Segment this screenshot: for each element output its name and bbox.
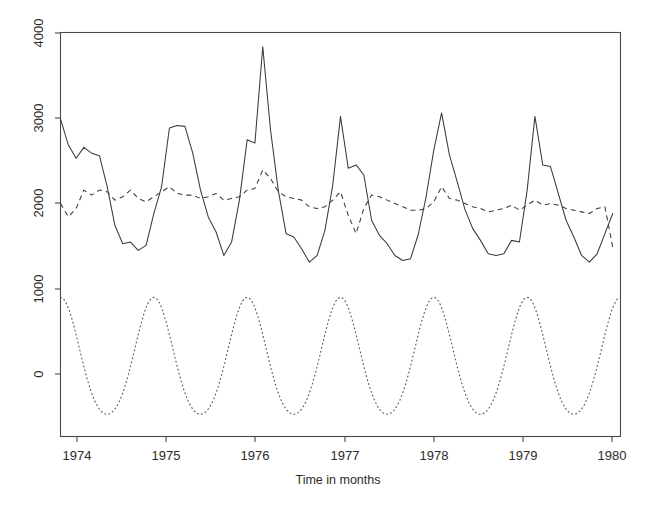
x-tick-label-1975: 1975 (152, 448, 181, 463)
series-adjusted-line (61, 170, 613, 247)
x-tick-label-1980: 1980 (598, 448, 627, 463)
x-tick-label-1978: 1978 (420, 448, 449, 463)
y-axis-ticks (55, 33, 60, 374)
plot-frame (61, 33, 621, 437)
x-axis-title: Time in months (296, 473, 381, 487)
x-axis-tick-labels: 1974 1975 1976 1977 1978 1979 1980 (63, 448, 627, 463)
y-tick-label-3000: 3000 (31, 104, 46, 133)
x-tick-label-1977: 1977 (331, 448, 360, 463)
y-axis-tick-labels: 4000 3000 2000 1000 0 (31, 19, 46, 378)
chart-figure: 4000 3000 2000 1000 0 1974 1975 1976 197… (0, 0, 652, 509)
series-seasonal-line (61, 297, 621, 414)
y-tick-label-4000: 4000 (31, 19, 46, 48)
y-tick-label-0: 0 (31, 370, 46, 377)
y-tick-label-1000: 1000 (31, 275, 46, 304)
series-observed-line (61, 47, 613, 262)
x-tick-label-1979: 1979 (509, 448, 538, 463)
x-tick-label-1974: 1974 (63, 448, 92, 463)
x-tick-label-1976: 1976 (241, 448, 270, 463)
y-tick-label-2000: 2000 (31, 189, 46, 218)
plot-canvas: 4000 3000 2000 1000 0 1974 1975 1976 197… (0, 0, 652, 509)
